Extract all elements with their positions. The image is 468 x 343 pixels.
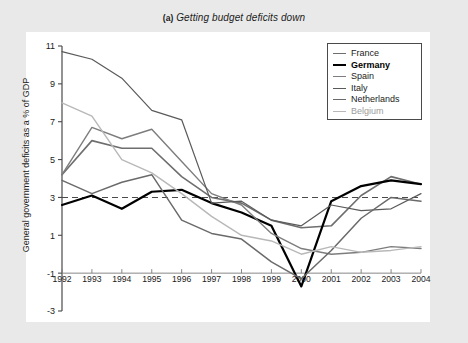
- line-swatch-icon: [333, 76, 346, 77]
- line-swatch-icon: [333, 111, 346, 112]
- legend-item[interactable]: Germany: [333, 60, 421, 72]
- legend-item-label: Germany: [351, 60, 390, 71]
- y-axis-tick-label: 3: [50, 193, 55, 203]
- x-axis-tick-label: 1994: [112, 274, 131, 284]
- series-line-netherlands: [62, 175, 421, 279]
- legend-item[interactable]: Italy: [333, 83, 421, 95]
- y-axis-tick-label: 11: [46, 41, 55, 51]
- x-axis-tick-label: 2001: [322, 274, 341, 284]
- x-axis-tick-label: 1996: [172, 274, 191, 284]
- x-axis-tick-label: 2003: [382, 274, 401, 284]
- x-axis-tick-label: 1993: [82, 274, 101, 284]
- legend-item[interactable]: Belgium: [333, 106, 421, 118]
- legend-item[interactable]: Netherlands: [333, 94, 421, 106]
- line-swatch-icon: [333, 64, 346, 66]
- x-axis-tick-label: 1997: [202, 274, 221, 284]
- y-axis-tick-label: -3: [47, 306, 55, 316]
- legend-item-label: Spain: [351, 71, 374, 82]
- chart-legend: FranceGermanySpainItalyNetherlandsBelgiu…: [327, 43, 422, 120]
- legend-item-label: Italy: [351, 83, 368, 94]
- legend-item-label: France: [351, 48, 379, 59]
- x-axis-tick-label: 1998: [232, 274, 251, 284]
- legend-item[interactable]: France: [333, 48, 421, 60]
- x-axis-tick-label: 2004: [411, 274, 430, 284]
- y-axis-tick-label: 5: [50, 155, 55, 165]
- line-swatch-icon: [333, 88, 346, 89]
- figure-container: (a) Getting budget deficits down General…: [0, 0, 468, 343]
- legend-item-label: Netherlands: [351, 94, 400, 105]
- y-axis-tick-label: 7: [50, 117, 55, 127]
- x-axis-tick-label: 1992: [52, 274, 71, 284]
- line-swatch-icon: [333, 53, 346, 54]
- legend-item[interactable]: Spain: [333, 71, 421, 83]
- legend-item-label: Belgium: [351, 106, 384, 117]
- series-line-belgium: [62, 103, 421, 254]
- x-axis-tick-label: 1999: [262, 274, 281, 284]
- line-swatch-icon: [333, 99, 346, 100]
- x-axis-tick-label: 1995: [142, 274, 161, 284]
- x-axis-tick-label: 2002: [352, 274, 371, 284]
- y-axis-tick-label: 9: [50, 79, 55, 89]
- y-axis-tick-label: 1: [50, 231, 55, 241]
